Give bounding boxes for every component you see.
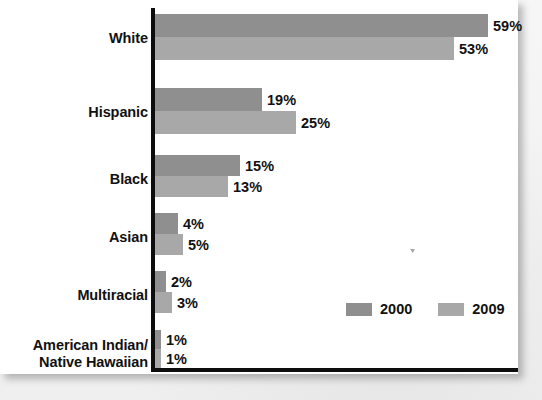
bar-value-label: 4% <box>178 216 204 232</box>
bar-value-label: 3% <box>172 295 198 311</box>
legend-item-2000: 2000 <box>346 302 412 317</box>
category-label: Multiracial <box>0 287 148 304</box>
bar-value-label: 1% <box>161 332 187 348</box>
bar-value-label: 59% <box>488 18 522 34</box>
category-label: Asian <box>0 229 148 246</box>
bar-value-label: 13% <box>228 179 262 195</box>
legend-swatch-icon <box>438 303 464 316</box>
bar-value-label: 15% <box>240 158 274 174</box>
bar-2009 <box>155 176 228 197</box>
category-label: Black <box>0 171 148 188</box>
category-label: American Indian/ Native Hawaiian <box>0 337 148 371</box>
bar-value-label: 2% <box>166 274 192 290</box>
chart-legend: 20002009 <box>346 302 505 317</box>
bar-rows-container: White59%53%Hispanic19%25%Black15%13%Asia… <box>0 0 518 374</box>
bar-2009 <box>155 37 454 60</box>
category-label: White <box>0 30 148 47</box>
bar-value-label: 53% <box>454 41 488 57</box>
bar-2009 <box>155 111 296 134</box>
bar-2000 <box>155 88 262 111</box>
legend-swatch-icon <box>346 303 372 316</box>
bar-value-label: 19% <box>262 92 296 108</box>
bar-2000 <box>155 155 240 176</box>
bar-2009 <box>155 292 172 313</box>
legend-label: 2009 <box>472 302 504 317</box>
legend-item-2009: 2009 <box>438 302 504 317</box>
bar-2000 <box>155 271 166 292</box>
bar-value-label: 25% <box>296 115 330 131</box>
bar-value-label: 1% <box>161 351 187 367</box>
bar-value-label: 5% <box>183 237 209 253</box>
bar-2000 <box>155 213 178 234</box>
bar-2009 <box>155 234 183 255</box>
bar-2000 <box>155 14 488 37</box>
legend-label: 2000 <box>380 302 412 317</box>
category-label: Hispanic <box>0 104 148 121</box>
chart-panel: White59%53%Hispanic19%25%Black15%13%Asia… <box>0 0 518 374</box>
